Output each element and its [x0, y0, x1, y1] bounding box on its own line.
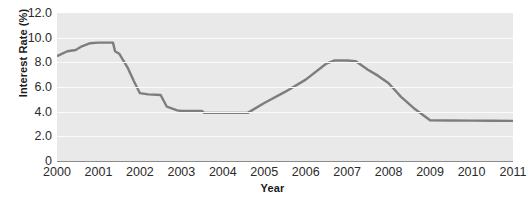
y-axis-tick-8.0: 8.0: [12, 56, 52, 68]
x-axis-tick-2003: 2003: [158, 165, 204, 179]
x-axis-tick-2008: 2008: [366, 165, 412, 179]
gridline: [57, 87, 513, 88]
x-axis-tick-2001: 2001: [75, 165, 121, 179]
x-axis-tick-2004: 2004: [200, 165, 246, 179]
y-axis-tick-10.0: 10.0: [12, 32, 52, 44]
interest-rate-line: [57, 43, 513, 121]
gridline: [57, 38, 513, 39]
x-axis-tick-2002: 2002: [117, 165, 163, 179]
gridline: [57, 136, 513, 137]
x-axis-tick-2011: 2011: [490, 165, 532, 179]
x-axis-tick-2000: 2000: [34, 165, 80, 179]
interest-rate-line-chart: Interest Rate (%) 12.010.08.06.04.02.00 …: [0, 0, 532, 209]
y-axis-tick-4.0: 4.0: [12, 106, 52, 118]
x-axis-tick-2009: 2009: [407, 165, 453, 179]
x-axis-tick-2010: 2010: [449, 165, 495, 179]
x-axis-tick-labels: 2000200120022003200420052006200720082009…: [0, 165, 532, 181]
plot-area: [57, 13, 513, 161]
x-axis-tick-2006: 2006: [283, 165, 329, 179]
y-axis-tick-2.0: 2.0: [12, 130, 52, 142]
gridline: [57, 112, 513, 113]
y-axis-tick-6.0: 6.0: [12, 81, 52, 93]
gridline: [57, 62, 513, 63]
x-axis-tick-2005: 2005: [241, 165, 287, 179]
x-axis-line: [57, 161, 513, 162]
y-axis-tick-12.0: 12.0: [12, 7, 52, 19]
x-axis-tick-2007: 2007: [324, 165, 370, 179]
x-axis-title: Year: [0, 182, 532, 194]
